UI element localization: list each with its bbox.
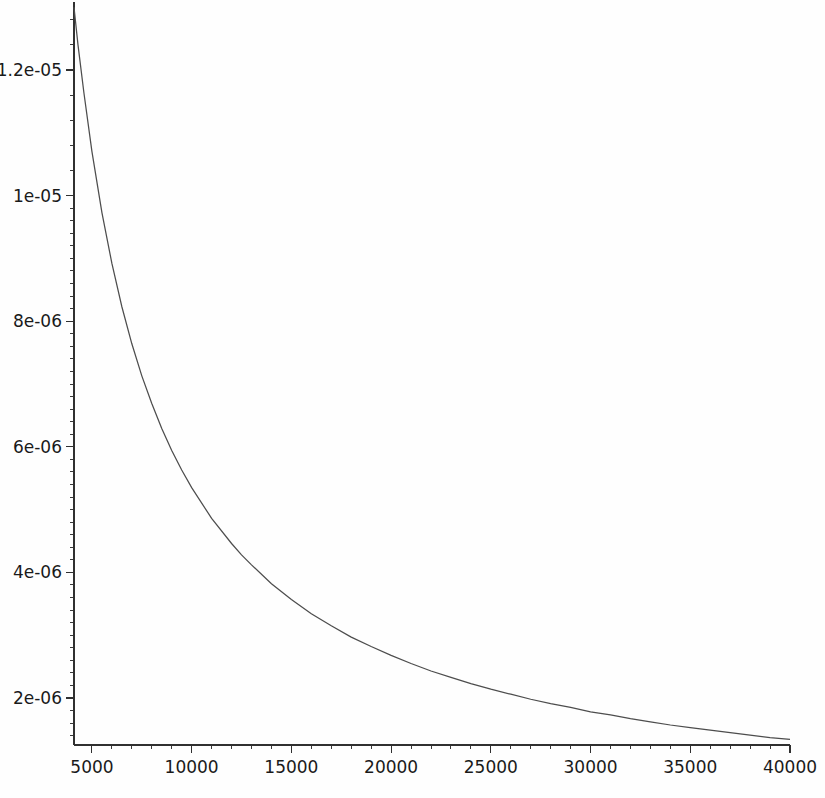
x-axis-major-ticks [92, 745, 790, 753]
x-tick-label-5: 30000 [564, 757, 618, 777]
data-series-curve [74, 7, 790, 739]
y-tick-label-0: 2e-06 [13, 688, 62, 708]
x-tick-label-2: 15000 [264, 757, 318, 777]
y-tick-label-1: 4e-06 [13, 562, 62, 582]
y-axis-tick-labels: 2e-064e-066e-068e-061e-051.2e-05 [0, 60, 62, 708]
y-tick-label-3: 8e-06 [13, 311, 62, 331]
x-tick-label-7: 40000 [763, 757, 817, 777]
line-chart: 2e-064e-066e-068e-061e-051.2e-05 5000100… [0, 0, 825, 798]
x-tick-label-6: 35000 [663, 757, 717, 777]
x-tick-label-3: 20000 [364, 757, 418, 777]
x-tick-label-1: 10000 [165, 757, 219, 777]
chart-canvas: 2e-064e-066e-068e-061e-051.2e-05 5000100… [0, 0, 825, 798]
y-tick-label-4: 1e-05 [13, 186, 62, 206]
x-axis-tick-labels: 500010000150002000025000300003500040000 [70, 757, 817, 777]
y-tick-label-5: 1.2e-05 [0, 60, 62, 80]
x-tick-label-0: 5000 [70, 757, 113, 777]
x-tick-label-4: 25000 [464, 757, 518, 777]
y-tick-label-2: 6e-06 [13, 437, 62, 457]
